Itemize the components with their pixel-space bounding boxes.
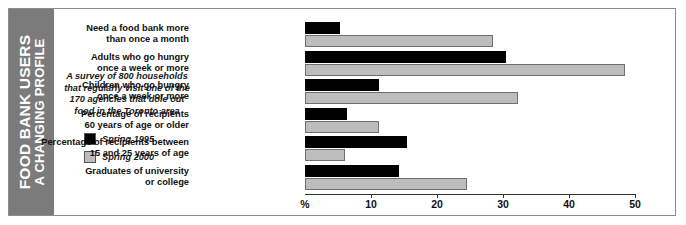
category-label: Need a food bank more than once a month bbox=[0, 23, 189, 45]
category-label: Adults who go hungry once a week or more bbox=[0, 52, 189, 74]
bars-area bbox=[305, 17, 653, 192]
x-tick-label: 50 bbox=[629, 198, 641, 210]
bar-spring-2000 bbox=[305, 64, 625, 76]
bar-spring-1995 bbox=[305, 108, 347, 120]
category-label: Percentage of recipients 60 years of age… bbox=[0, 109, 189, 131]
category-label: Graduates of university or college bbox=[0, 166, 189, 188]
bar-spring-1995 bbox=[305, 79, 379, 91]
bar-spring-1995 bbox=[305, 136, 407, 148]
chart-plot-area: Need a food bank more than once a monthA… bbox=[194, 17, 664, 207]
x-tick-label: % bbox=[300, 198, 309, 210]
bar-spring-2000 bbox=[305, 92, 518, 104]
x-tick-label: 10 bbox=[365, 198, 377, 210]
x-tick-label: 40 bbox=[563, 198, 575, 210]
bar-spring-1995 bbox=[305, 51, 506, 63]
bar-spring-2000 bbox=[305, 178, 467, 190]
bar-spring-1995 bbox=[305, 165, 399, 177]
x-tick-label: 30 bbox=[497, 198, 509, 210]
x-axis-line bbox=[305, 194, 635, 195]
bar-spring-2000 bbox=[305, 35, 493, 47]
bar-spring-2000 bbox=[305, 121, 379, 133]
chart-panel: A survey of 800 households that regularl… bbox=[54, 9, 675, 215]
bar-spring-1995 bbox=[305, 22, 340, 34]
x-tick-label: 20 bbox=[431, 198, 443, 210]
bar-spring-2000 bbox=[305, 149, 345, 161]
category-label: Children who go hungry once a week or mo… bbox=[0, 80, 189, 102]
chart-figure: FOOD BANK USERS A CHANGING PROFILE A sur… bbox=[8, 8, 676, 216]
category-label: Percentage of recipients between 15 and … bbox=[0, 137, 189, 159]
